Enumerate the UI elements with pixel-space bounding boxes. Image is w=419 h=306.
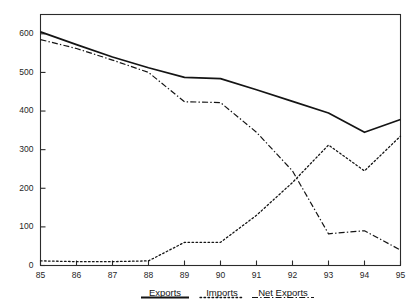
x-axis-tick-label: 93 bbox=[324, 270, 334, 280]
x-axis-tick-label: 85 bbox=[36, 270, 46, 280]
x-axis-tick-label: 92 bbox=[288, 270, 298, 280]
x-axis-tick-label: 95 bbox=[396, 270, 406, 280]
series-line-exports bbox=[41, 32, 401, 132]
x-axis-tick-label: 90 bbox=[216, 270, 226, 280]
line-chart: 0100200300400500600858687888990919293949… bbox=[0, 0, 419, 306]
y-axis-tick-label: 100 bbox=[19, 221, 33, 231]
chart-canvas: 0100200300400500600858687888990919293949… bbox=[0, 0, 419, 306]
x-axis-tick-label: 87 bbox=[108, 270, 118, 280]
x-axis-tick-label: 88 bbox=[144, 270, 154, 280]
series-line-imports bbox=[41, 136, 401, 262]
legend-label-exports: Exports bbox=[149, 287, 181, 298]
x-axis-tick-label: 94 bbox=[360, 270, 370, 280]
plot-frame bbox=[41, 15, 401, 266]
series-line-net-exports bbox=[41, 40, 401, 250]
x-axis-tick-label: 86 bbox=[72, 270, 82, 280]
legend-label-net-exports: Net Exports bbox=[258, 287, 308, 298]
y-axis-tick-label: 400 bbox=[19, 105, 33, 115]
x-axis-tick-label: 89 bbox=[180, 270, 190, 280]
y-axis-tick-label: 300 bbox=[19, 144, 33, 154]
x-axis-tick-label: 91 bbox=[252, 270, 262, 280]
y-axis-tick-label: 0 bbox=[29, 260, 34, 270]
y-axis-tick-label: 500 bbox=[19, 67, 33, 77]
legend-label-imports: Imports bbox=[206, 287, 238, 298]
y-axis-tick-label: 600 bbox=[19, 28, 33, 38]
y-axis-tick-label: 200 bbox=[19, 183, 33, 193]
